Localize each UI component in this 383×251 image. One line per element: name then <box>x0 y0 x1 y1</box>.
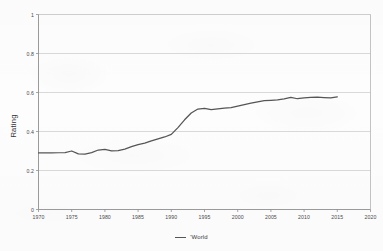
x-tick-label: 2005 <box>265 214 277 220</box>
x-tick-label: 1995 <box>199 214 211 220</box>
axis-lines <box>39 15 371 210</box>
x-tick-label: 2000 <box>232 214 244 220</box>
line-chart: 00.20.40.60.8119701975198019851990199520… <box>0 0 383 251</box>
legend-line-swatch <box>175 237 186 238</box>
x-tick-label: 2010 <box>298 214 310 220</box>
series-line--world <box>39 97 338 154</box>
y-tick-label: 0.2 <box>14 168 34 174</box>
axis-tickmarks <box>36 15 371 213</box>
x-tick-label: 1985 <box>132 214 144 220</box>
x-tick-label: 1975 <box>66 214 78 220</box>
x-tick-label: 1970 <box>33 214 45 220</box>
plot-canvas <box>0 0 383 251</box>
x-tick-label: 2015 <box>331 214 343 220</box>
x-tick-label: 1980 <box>99 214 111 220</box>
x-tick-label: 2020 <box>365 214 377 220</box>
y-tick-label: 1 <box>14 12 34 18</box>
y-tick-label: 0 <box>14 207 34 213</box>
data-series <box>39 97 338 154</box>
y-tick-label: 0.6 <box>14 90 34 96</box>
legend-label-world: 'World <box>190 234 207 240</box>
x-tick-label: 1990 <box>165 214 177 220</box>
chart-legend: 'World <box>0 234 383 240</box>
y-tick-label: 0.8 <box>14 51 34 57</box>
y-axis-title: Rating <box>9 114 18 137</box>
gridlines <box>39 15 371 171</box>
